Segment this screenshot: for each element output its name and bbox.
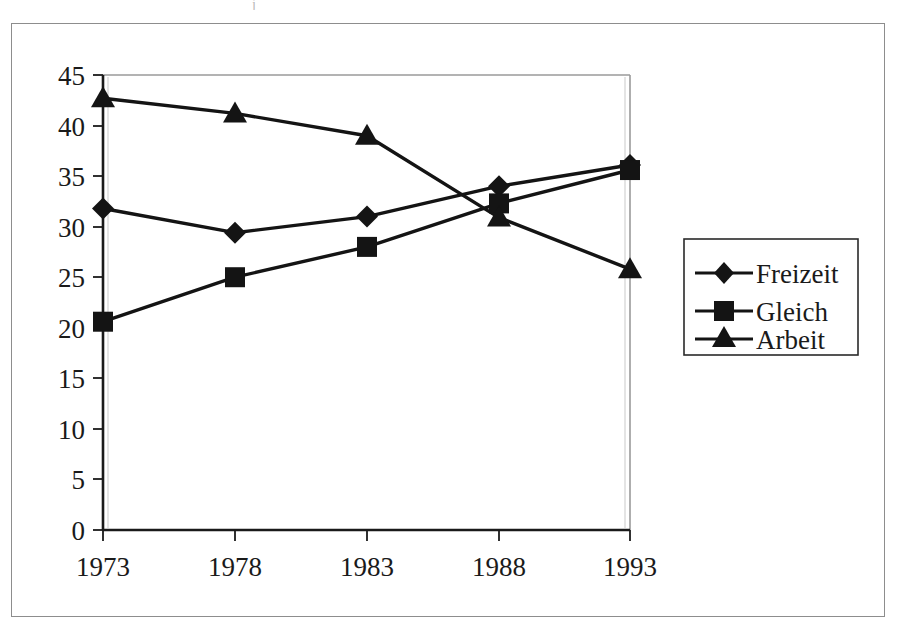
square-marker-icon [714, 301, 734, 321]
series-gleich [93, 160, 640, 332]
x-tick-label: 1978 [208, 552, 262, 582]
line-chart: 45 40 35 30 25 20 15 10 5 0 1973 1978 19… [11, 23, 885, 617]
legend-label-freizeit: Freizeit [756, 259, 839, 289]
diamond-marker-icon [356, 206, 378, 228]
diamond-marker-icon [224, 222, 246, 244]
square-marker-icon [620, 160, 640, 180]
x-tick-label: 1983 [340, 552, 394, 582]
square-marker-icon [357, 237, 377, 257]
y-tick-label: 20 [58, 314, 85, 344]
diamond-marker-icon [92, 197, 114, 219]
legend-label-gleich: Gleich [756, 297, 828, 327]
legend-label-arbeit: Arbeit [756, 325, 825, 355]
x-axis-tick-labels: 1973 1978 1983 1988 1993 [76, 552, 657, 582]
y-tick-label: 40 [58, 112, 85, 142]
y-tick-label: 10 [58, 415, 85, 445]
y-tick-label: 0 [72, 516, 86, 546]
triangle-marker-icon [618, 257, 642, 278]
y-tick-label: 45 [58, 61, 85, 91]
x-tick-label: 1988 [472, 552, 526, 582]
series-freizeit [92, 154, 641, 244]
y-tick-label: 5 [72, 465, 86, 495]
square-marker-icon [93, 312, 113, 332]
scan-artifact: j [252, 0, 261, 10]
x-tick-label: 1973 [76, 552, 130, 582]
y-tick-label: 30 [58, 213, 85, 243]
y-tick-label: 15 [58, 364, 85, 394]
y-axis-tick-labels: 45 40 35 30 25 20 15 10 5 0 [58, 61, 85, 546]
series-layer [91, 86, 642, 331]
x-axis-ticks [103, 530, 630, 541]
triangle-marker-icon [91, 86, 115, 107]
y-tick-label: 25 [58, 263, 85, 293]
figure-canvas: j 45 40 35 [0, 0, 906, 642]
y-tick-label: 35 [58, 162, 85, 192]
square-marker-icon [225, 267, 245, 287]
x-tick-label: 1993 [603, 552, 657, 582]
y-axis-ticks [93, 75, 103, 530]
legend: Freizeit Gleich Arbeit [684, 239, 858, 355]
